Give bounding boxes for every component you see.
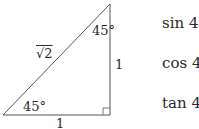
hypotenuse-label: √2 <box>36 47 53 60</box>
vertical-side-label: 1 <box>115 58 123 71</box>
cos-expression: cos 45° <box>162 56 199 71</box>
bottom-angle-label: 45° <box>23 100 46 113</box>
sin-expression: sin 45° <box>162 16 199 31</box>
tan-expression: tan 45° <box>162 96 199 111</box>
right-angle-marker <box>103 108 110 115</box>
hypotenuse-value: √2 <box>36 46 53 61</box>
triangle-shape <box>3 4 110 115</box>
horizontal-side-label: 1 <box>56 117 64 129</box>
top-angle-label: 45° <box>92 24 115 37</box>
